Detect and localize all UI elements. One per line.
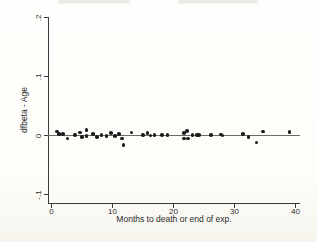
data-point bbox=[57, 132, 61, 136]
data-point bbox=[160, 133, 164, 137]
plot-area: .2.10-.1 010203040 dfbeta - Age Months t… bbox=[0, 0, 317, 242]
y-tick-label: .2 bbox=[34, 14, 43, 21]
x-axis-title: Months to death or end of exp. bbox=[116, 214, 231, 224]
data-point bbox=[109, 131, 113, 135]
y-tick-label: -.1 bbox=[34, 190, 43, 199]
data-point bbox=[78, 131, 82, 135]
data-point bbox=[120, 137, 124, 141]
data-point bbox=[122, 143, 126, 147]
data-point bbox=[117, 132, 121, 136]
data-point bbox=[191, 133, 195, 137]
y-tick-mark bbox=[44, 194, 48, 195]
data-point bbox=[153, 133, 157, 137]
y-tick-label: .1 bbox=[34, 73, 43, 80]
y-tick-mark bbox=[44, 135, 48, 136]
data-point bbox=[85, 134, 89, 138]
data-point bbox=[130, 131, 134, 135]
data-point bbox=[247, 135, 251, 139]
data-point bbox=[100, 133, 104, 137]
data-point bbox=[149, 134, 153, 138]
x-tick-label: 0 bbox=[49, 207, 53, 216]
data-point bbox=[182, 137, 186, 141]
data-point bbox=[66, 137, 70, 141]
y-tick-label: 0 bbox=[34, 133, 43, 137]
data-point bbox=[261, 130, 265, 134]
data-point bbox=[141, 133, 145, 137]
data-point bbox=[73, 133, 77, 137]
data-point bbox=[288, 130, 292, 134]
data-point bbox=[105, 134, 109, 138]
data-point bbox=[209, 133, 213, 137]
x-axis-line bbox=[48, 203, 300, 204]
data-point bbox=[186, 137, 190, 141]
data-point bbox=[197, 133, 201, 137]
y-axis-line bbox=[48, 17, 49, 204]
data-point bbox=[255, 141, 259, 145]
data-point bbox=[241, 132, 245, 136]
figure: .2.10-.1 010203040 dfbeta - Age Months t… bbox=[0, 0, 317, 242]
y-tick-mark bbox=[44, 17, 48, 18]
data-point bbox=[185, 129, 189, 133]
y-axis-title: dfbeta - Age bbox=[19, 87, 29, 133]
data-point bbox=[61, 132, 65, 136]
data-point bbox=[85, 128, 89, 132]
y-tick-mark bbox=[44, 76, 48, 77]
data-point bbox=[166, 133, 170, 137]
x-tick-label: 40 bbox=[291, 207, 300, 216]
data-point bbox=[80, 135, 84, 139]
data-point bbox=[221, 134, 225, 138]
data-point bbox=[95, 135, 99, 139]
